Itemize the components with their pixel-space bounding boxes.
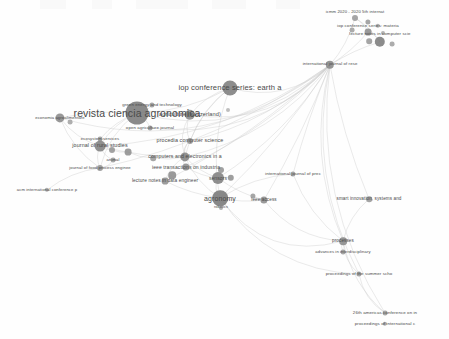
node-label: procedia computer science [157,138,224,143]
node-label: journal of food process enginee [69,166,131,170]
node-label: advances in interdisciplinary [315,250,370,254]
node-label: international journal of prec [265,172,321,176]
node-label: processes [332,239,354,244]
node-label: iop conference series: earth a [178,84,281,92]
node-label: journal of rural studies [72,143,127,148]
node-label: smart innovation, systems and [337,197,402,202]
node-label: ecosystem services [81,137,119,141]
node-label: agriculture (switzerland) [159,112,221,118]
node-label: international journal of rese [303,62,358,66]
node-label: proceedings of the summer scho [326,272,393,276]
node-label: icmm 2020 - 2020 5th internat [326,10,385,14]
node-label: lecture notes in data engineer [132,179,198,184]
node-label: lecture notes in computer scie [349,32,410,36]
network-map-canvas[interactable]: icmm 2020 - 2020 5th internatiop confere… [0,0,449,339]
node-label: acm international conference p [17,188,77,192]
node-label: proceedings of international c [355,322,415,326]
node-label: ieee access [251,198,276,203]
label-layer: icmm 2020 - 2020 5th internatiop confere… [0,0,449,339]
node-label: 26th americas conference on in [353,311,417,315]
node-label: open agriculture journal [126,126,174,130]
node-label: computers and electronics in a [148,154,221,159]
node-label: sensors [209,176,227,181]
node-label: ieee transactions on industria [152,165,220,170]
node-label: animal [107,158,120,162]
node-label: economia agroalimentare [35,116,85,120]
node-label: iop conference series: materia [337,24,399,28]
node-label: agronomy [204,195,236,202]
node-label: robotics [214,206,228,210]
